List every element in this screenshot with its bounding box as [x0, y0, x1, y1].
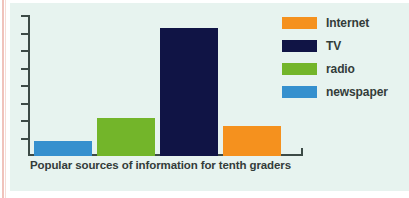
chart-panel: Popular sources of information for tenth… — [10, 3, 409, 191]
page-edge-rule — [2, 0, 4, 198]
bar-radio — [97, 118, 155, 156]
legend-swatch-icon — [282, 86, 317, 98]
legend-swatch-icon — [282, 17, 317, 29]
page-edge-rule-secondary — [5, 0, 6, 198]
legend-swatch-icon — [282, 40, 317, 52]
x-axis-end-tick — [301, 148, 303, 156]
legend-item-label: newspaper — [326, 85, 388, 99]
legend-item-internet[interactable]: Internet — [282, 13, 407, 32]
y-axis-tick — [21, 68, 30, 70]
y-axis-tick — [21, 85, 30, 87]
legend-item-label: Internet — [326, 16, 369, 30]
y-axis-tick — [21, 103, 30, 105]
legend-swatch-icon — [282, 63, 317, 75]
chart-caption: Popular sources of information for tenth… — [30, 159, 291, 171]
bar-newspaper — [34, 141, 92, 156]
bar-chart-figure: Popular sources of information for tenth… — [0, 0, 409, 198]
legend-item-radio[interactable]: radio — [282, 59, 407, 78]
chart-legend: InternetTVradionewspaper — [282, 13, 407, 105]
y-axis-tick — [21, 138, 30, 140]
y-axis-tick — [21, 15, 30, 17]
legend-item-label: radio — [326, 62, 355, 76]
y-axis-tick — [21, 33, 30, 35]
legend-item-label: TV — [326, 39, 341, 53]
bar-Internet — [223, 126, 281, 156]
legend-item-tv[interactable]: TV — [282, 36, 407, 55]
bar-TV — [160, 28, 218, 156]
y-axis-tick — [21, 50, 30, 52]
legend-item-newspaper[interactable]: newspaper — [282, 82, 407, 101]
y-axis-tick — [21, 120, 30, 122]
